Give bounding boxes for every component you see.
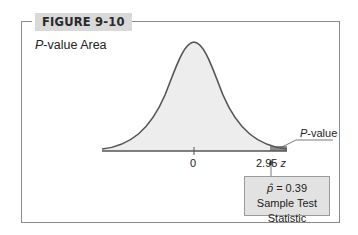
tick-label-zero: 0 bbox=[190, 157, 196, 169]
p-value-label: P-value bbox=[300, 127, 337, 139]
tick-label-2-95: 2.95 z bbox=[256, 157, 286, 169]
p-value-leader bbox=[280, 140, 296, 148]
sample-statistic-box: p̂ = 0.39 Sample Test Statistic bbox=[244, 176, 330, 216]
stat-equation: p̂ = 0.39 bbox=[245, 181, 329, 196]
curve-area bbox=[102, 42, 287, 151]
axis-variable: z bbox=[280, 157, 286, 169]
stat-caption: Sample Test Statistic bbox=[245, 196, 329, 226]
